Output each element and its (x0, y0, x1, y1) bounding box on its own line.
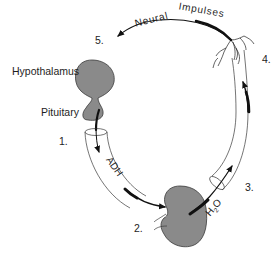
step-4-label: 4. (262, 53, 271, 65)
neural-label: Neural (134, 10, 170, 29)
pituitary-label: Pituitary (41, 106, 80, 118)
impulses-label: Impulses (178, 0, 226, 19)
adh-label: ADH (104, 155, 125, 179)
step-1-label: 1. (59, 135, 68, 147)
hypothalamus-pituitary-organ (76, 60, 115, 120)
step-2-label: 2. (134, 222, 143, 234)
nerve-receptor-endings (213, 36, 254, 68)
hypothalamus-label: Hypothalamus (12, 65, 79, 77)
step-5-label: 5. (95, 34, 104, 46)
adh-flow-arrow (96, 128, 99, 152)
water-return-tube (208, 50, 248, 192)
step-3-label: 3. (245, 181, 254, 193)
adh-to-kidney-arrow (125, 189, 165, 207)
kidney-organ (154, 186, 207, 247)
adh-cycle-diagram: Hypothalamus Pituitary 1. 2. 3. 4. 5. AD… (0, 0, 279, 256)
